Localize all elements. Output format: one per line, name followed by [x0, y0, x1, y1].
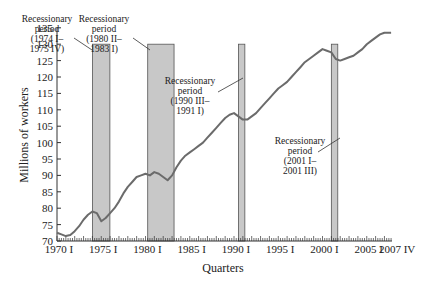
y-tick-label: 100: [37, 137, 54, 149]
recession-bar: [148, 44, 174, 241]
annotation-text: period: [35, 24, 60, 34]
recession-bar: [238, 44, 244, 241]
x-tick-label: 1970 I: [45, 243, 74, 255]
y-tick-label: 125: [37, 55, 54, 67]
x-tick-label: 1975 I: [89, 243, 118, 255]
annotation-text: period: [178, 86, 203, 96]
annotation-text: 1983 I): [90, 44, 118, 55]
y-tick-label: 120: [37, 71, 54, 83]
y-tick-label: 110: [37, 104, 54, 116]
x-tick-label: 1980 I: [133, 243, 162, 255]
x-tick-label: 1995 I: [266, 243, 295, 255]
annotation-text: 1975 IV): [30, 44, 65, 55]
annotation-text: period: [92, 24, 117, 34]
annotation-text: 1991 I): [176, 106, 204, 117]
employment-line-chart: 7075808590951001051101151201251301351970…: [0, 0, 443, 287]
annotation-text: period: [288, 146, 313, 156]
x-tick-label: 1990 I: [222, 243, 251, 255]
y-tick-label: 95: [42, 153, 54, 165]
annotation-text: 2001 III): [283, 166, 317, 177]
x-axis-label: Quarters: [202, 261, 244, 275]
x-tick-label: 2007 IV: [379, 243, 415, 255]
y-axis-label: Millions of workers: [17, 87, 31, 183]
x-tick-label: 1985 I: [178, 243, 207, 255]
y-tick-label: 105: [37, 120, 54, 132]
annotations: Recessionaryperiod(1974 I–1975 IV)Recess…: [22, 14, 340, 177]
y-tick-label: 115: [37, 87, 54, 99]
y-tick-label: 75: [42, 219, 54, 231]
annotation-text: Recessionary: [22, 14, 73, 24]
y-tick-label: 80: [42, 202, 54, 214]
y-tick-label: 90: [42, 169, 54, 181]
annotation-text: Recessionary: [165, 76, 216, 86]
y-tick-label: 85: [42, 186, 54, 198]
annotation-text: Recessionary: [79, 14, 130, 24]
annotation-text: Recessionary: [275, 136, 326, 146]
x-tick-label: 2000 I: [310, 243, 339, 255]
